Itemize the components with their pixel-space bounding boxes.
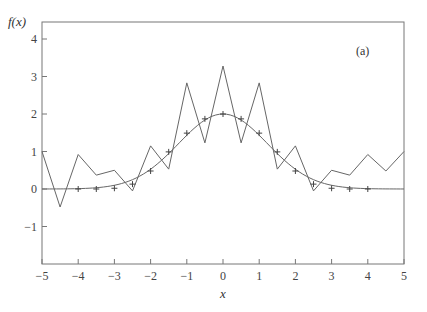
plus-marker xyxy=(220,111,226,117)
plus-marker xyxy=(184,130,190,136)
y-tick-label: 4 xyxy=(31,32,37,46)
plus-marker xyxy=(166,149,172,155)
smooth-curve xyxy=(42,114,404,189)
y-tick-label: 3 xyxy=(31,70,37,84)
x-tick-label: −1 xyxy=(180,269,193,283)
x-tick-label: 3 xyxy=(329,269,335,283)
plus-marker xyxy=(365,186,371,192)
x-tick-label: −3 xyxy=(108,269,121,283)
plot-frame xyxy=(42,22,404,264)
plus-marker xyxy=(256,130,262,136)
series-group xyxy=(42,66,404,207)
x-tick-label: 0 xyxy=(220,269,226,283)
axis-ticks: −5−4−3−2−1012345−101234 xyxy=(24,32,407,283)
y-tick-label: 0 xyxy=(31,182,37,196)
plus-marker xyxy=(347,186,353,192)
y-tick-label: 1 xyxy=(31,145,37,159)
x-tick-label: 2 xyxy=(292,269,298,283)
chart: −5−4−3−2−1012345−101234 f(x) x (a) xyxy=(0,0,427,312)
y-tick-label: 2 xyxy=(31,107,37,121)
x-axis-label: x xyxy=(219,286,226,301)
plus-marker xyxy=(292,168,298,174)
plus-marker xyxy=(274,149,280,155)
x-tick-label: −4 xyxy=(72,269,85,283)
x-tick-label: −2 xyxy=(144,269,157,283)
x-tick-label: 1 xyxy=(256,269,262,283)
x-tick-label: 4 xyxy=(365,269,371,283)
plus-marker xyxy=(75,186,81,192)
y-tick-label: −1 xyxy=(24,220,37,234)
plus-marker xyxy=(148,168,154,174)
x-tick-label: 5 xyxy=(401,269,407,283)
panel-annotation: (a) xyxy=(356,44,369,58)
x-tick-label: −5 xyxy=(36,269,49,283)
y-axis-label: f(x) xyxy=(8,14,26,29)
oscillating-line xyxy=(42,66,404,207)
plus-marker xyxy=(93,186,99,192)
